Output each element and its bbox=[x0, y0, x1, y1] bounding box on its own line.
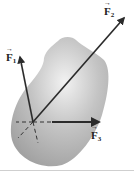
f1-label: →F1 bbox=[6, 52, 16, 65]
rigid-body bbox=[11, 37, 109, 166]
f3-label: →F3 bbox=[91, 130, 101, 143]
vector-arrow-icon: → bbox=[91, 124, 98, 131]
divider bbox=[0, 170, 134, 171]
vector-arrow-icon: → bbox=[104, 0, 111, 7]
f2-label: →F2 bbox=[104, 6, 114, 19]
vector-arrow-icon: → bbox=[6, 46, 13, 53]
force-diagram bbox=[0, 0, 134, 177]
